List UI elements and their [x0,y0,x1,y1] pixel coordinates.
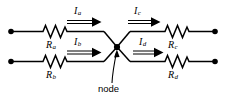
current-label-ib: Ib [74,37,81,48]
branch-bottom-left [8,47,117,68]
node-junction-dot [114,44,120,50]
current-label-id: Id [139,37,146,48]
terminal-dot-top-left [8,29,14,35]
resistor-label-rc: Rc [168,40,178,51]
terminal-dot-bottom-left [8,59,14,65]
current-label-ic: Ic [134,6,141,17]
terminal-dot-top-right [212,29,218,35]
current-arrow-ib [67,48,102,57]
branch-top-left [8,26,117,48]
node-callout-arrowhead [114,50,120,58]
current-arrow-ia [67,17,102,26]
current-arrow-ic [128,17,161,26]
resistor-label-rb: Rb [46,70,56,81]
resistor-symbol-ra [40,26,70,38]
resistor-label-rd: Rd [168,70,178,81]
resistor-symbol-rb [40,56,70,68]
node-callout-label: node [98,84,119,94]
resistor-symbol-rd [162,56,192,68]
terminal-dot-bottom-right [212,59,218,65]
resistor-symbol-rc [162,26,192,38]
current-label-ia: Ia [74,6,81,17]
current-arrow-id [133,48,164,57]
circuit-diagram: Ia Ib Ic Id Ra Rb Rc Rd node [0,0,226,99]
resistor-label-ra: Ra [46,40,56,51]
